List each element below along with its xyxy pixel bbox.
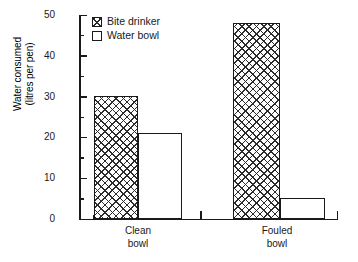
bar-water-bowl-fouled-bowl bbox=[280, 198, 325, 219]
y-tick-major-0 bbox=[81, 219, 87, 221]
y-tick-minor-25 bbox=[81, 117, 85, 119]
chart-figure: Water consumed (litres per pen) 50 40 30… bbox=[0, 0, 358, 262]
y-tick-major-10 bbox=[81, 178, 87, 180]
y-tick-major-50 bbox=[81, 15, 87, 17]
x-tick-major-group-divider bbox=[200, 211, 202, 219]
y-tick-major-30 bbox=[81, 96, 87, 98]
y-tick-minor-15 bbox=[81, 157, 85, 159]
x-axis-category-fouled-bowl-line1: Fouled bbox=[222, 224, 332, 237]
legend-entry-water-bowl: Water bowl bbox=[92, 30, 160, 41]
y-tick-label-30: 30 bbox=[15, 92, 55, 102]
x-axis-category-clean-bowl: Clean bowl bbox=[83, 224, 193, 250]
plot-area: 50 40 30 20 10 0 Clean bbox=[79, 15, 338, 220]
y-tick-major-40 bbox=[81, 55, 87, 57]
legend-swatch-empty-icon bbox=[92, 31, 102, 41]
x-axis-end-tick bbox=[337, 211, 339, 219]
legend-entry-bite-drinker: Bite drinker bbox=[92, 16, 160, 27]
y-tick-label-40: 40 bbox=[15, 51, 55, 61]
x-axis-category-clean-bowl-line1: Clean bbox=[83, 224, 193, 237]
chart-legend: Bite drinker Water bowl bbox=[92, 16, 160, 41]
x-axis-category-fouled-bowl: Fouled bowl bbox=[222, 224, 332, 250]
y-tick-minor-45 bbox=[81, 35, 85, 37]
y-tick-label-10: 10 bbox=[15, 173, 55, 183]
legend-label-bite-drinker: Bite drinker bbox=[107, 16, 160, 27]
bar-bite-drinker-fouled-bowl bbox=[233, 23, 280, 219]
bar-water-bowl-clean-bowl bbox=[138, 133, 182, 219]
x-axis-category-fouled-bowl-line2: bowl bbox=[222, 237, 332, 250]
y-axis-title: Water consumed (litres per pen) bbox=[2, 0, 46, 154]
y-tick-minor-35 bbox=[81, 76, 85, 78]
bar-bite-drinker-clean-bowl bbox=[94, 96, 138, 219]
y-tick-label-20: 20 bbox=[15, 132, 55, 142]
y-tick-label-50: 50 bbox=[15, 10, 55, 20]
x-axis-category-clean-bowl-line2: bowl bbox=[83, 237, 193, 250]
y-tick-major-20 bbox=[81, 137, 87, 139]
legend-label-water-bowl: Water bowl bbox=[107, 30, 159, 41]
legend-swatch-crosshatch-icon bbox=[92, 17, 102, 27]
y-tick-label-0: 0 bbox=[15, 214, 55, 224]
y-tick-minor-5 bbox=[81, 198, 85, 200]
